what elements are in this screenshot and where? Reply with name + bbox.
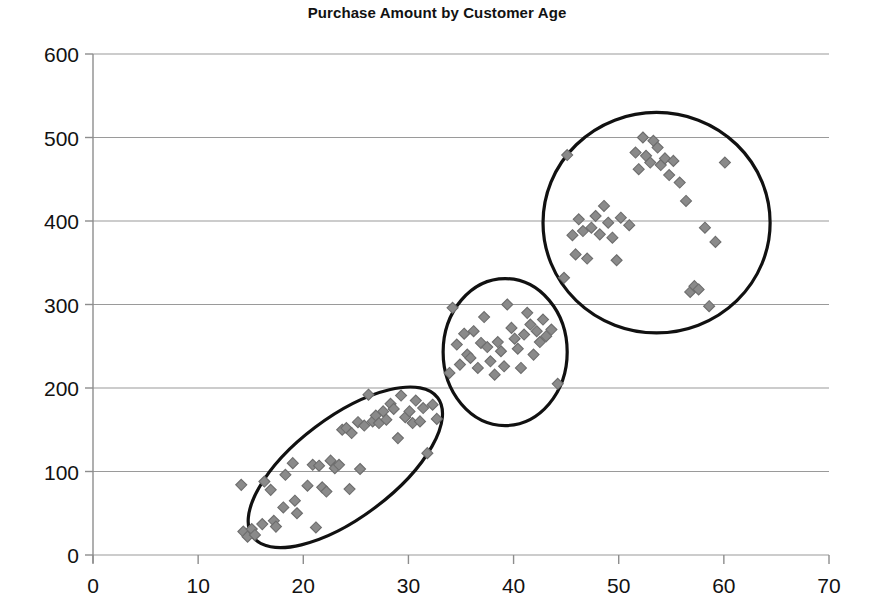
y-tick-label-200: 200 xyxy=(44,377,79,400)
data-point-marker xyxy=(344,484,355,495)
data-point-marker xyxy=(392,433,403,444)
data-point-marker xyxy=(637,132,648,143)
data-point-marker xyxy=(502,299,513,310)
data-point-marker xyxy=(302,480,313,491)
plot-area: 0100200300400500600010203040506070 xyxy=(0,0,874,615)
data-point-marker xyxy=(278,502,289,513)
data-point-marker xyxy=(573,214,584,225)
data-point-marker xyxy=(257,519,268,530)
data-point-marker xyxy=(459,328,470,339)
y-tick-label-500: 500 xyxy=(44,127,79,150)
data-point-marker xyxy=(287,458,298,469)
scatter-chart: Purchase Amount by Customer Age 01002003… xyxy=(0,0,874,615)
y-tick-label-600: 600 xyxy=(44,43,79,66)
data-markers xyxy=(236,132,731,542)
y-tick-label-300: 300 xyxy=(44,294,79,317)
cluster-1-outline xyxy=(223,358,468,577)
data-point-marker xyxy=(594,229,605,240)
data-point-marker xyxy=(630,147,641,158)
data-point-marker xyxy=(410,395,421,406)
x-tick-label-50: 50 xyxy=(607,574,630,597)
data-point-marker xyxy=(538,314,549,325)
data-point-marker xyxy=(499,361,510,372)
data-point-marker xyxy=(699,222,710,233)
data-point-marker xyxy=(664,170,675,181)
y-tick-label-400: 400 xyxy=(44,210,79,233)
data-point-marker xyxy=(704,301,715,312)
data-point-marker xyxy=(454,359,465,370)
data-point-marker xyxy=(590,210,601,221)
data-point-marker xyxy=(468,326,479,337)
data-point-marker xyxy=(611,255,622,266)
x-tick-label-0: 0 xyxy=(87,574,99,597)
data-point-marker xyxy=(472,362,483,373)
data-point-marker xyxy=(451,339,462,350)
data-point-marker xyxy=(265,484,276,495)
data-point-marker xyxy=(607,232,618,243)
data-point-marker xyxy=(236,479,247,490)
data-point-marker xyxy=(633,164,644,175)
data-point-marker xyxy=(396,390,407,401)
data-point-marker xyxy=(355,463,366,474)
data-point-marker xyxy=(291,508,302,519)
x-tick-label-20: 20 xyxy=(292,574,315,597)
x-tick-label-70: 70 xyxy=(817,574,840,597)
data-point-marker xyxy=(506,322,517,333)
x-tick-label-60: 60 xyxy=(712,574,735,597)
data-point-marker xyxy=(570,249,581,260)
data-point-marker xyxy=(485,356,496,367)
data-point-marker xyxy=(582,253,593,264)
tick-labels: 0100200300400500600010203040506070 xyxy=(44,43,841,597)
data-point-marker xyxy=(522,307,533,318)
data-point-marker xyxy=(603,217,614,228)
x-tick-label-40: 40 xyxy=(502,574,525,597)
data-point-marker xyxy=(479,312,490,323)
data-point-marker xyxy=(710,236,721,247)
data-point-marker xyxy=(681,195,692,206)
data-point-marker xyxy=(674,177,685,188)
data-point-marker xyxy=(598,200,609,211)
data-point-marker xyxy=(289,495,300,506)
x-tick-label-10: 10 xyxy=(186,574,209,597)
data-point-marker xyxy=(515,362,526,373)
data-point-marker xyxy=(489,369,500,380)
y-tick-label-0: 0 xyxy=(67,544,79,567)
y-tick-label-100: 100 xyxy=(44,461,79,484)
x-tick-label-30: 30 xyxy=(397,574,420,597)
data-point-marker xyxy=(567,230,578,241)
data-point-marker xyxy=(310,522,321,533)
data-point-marker xyxy=(719,157,730,168)
data-point-marker xyxy=(528,349,539,360)
data-point-marker xyxy=(512,343,523,354)
